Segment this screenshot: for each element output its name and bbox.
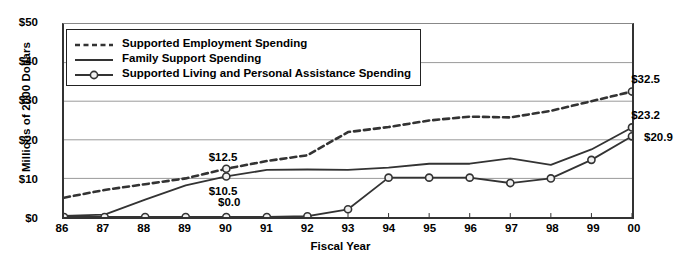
x-axis-tick-88: 88 (124, 222, 164, 234)
y-axis-tick-50: $50 (0, 16, 38, 28)
legend-item-2: Supported Living and Personal Assistance… (73, 65, 411, 80)
x-axis-tick-93: 93 (328, 222, 368, 234)
x-axis-tick-86: 86 (42, 222, 82, 234)
data-label-209: $20.9 (644, 131, 673, 143)
line-chart: Millions of 2000 Dollars $0$10$20$30$40$… (0, 0, 681, 262)
legend-label: Family Support Spending (122, 52, 261, 64)
solid-line-circle-marker-swatch (73, 67, 115, 79)
x-axis-tick-89: 89 (165, 222, 205, 234)
y-axis-tick-20: $20 (0, 134, 38, 146)
x-axis-tick-98: 98 (532, 222, 572, 234)
y-axis-tick-0: $0 (0, 212, 38, 224)
data-label-125: $12.5 (189, 151, 237, 163)
legend-item-0: Supported Employment Spending (73, 35, 411, 50)
x-axis-title: Fiscal Year (0, 240, 681, 252)
x-axis-tick-94: 94 (369, 222, 409, 234)
x-axis-tick-87: 87 (83, 222, 123, 234)
y-axis-tick-10: $10 (0, 173, 38, 185)
legend-label: Supported Living and Personal Assistance… (122, 67, 411, 79)
legend-label: Supported Employment Spending (122, 37, 307, 49)
x-axis-tick-96: 96 (451, 222, 491, 234)
data-label-325: $32.5 (612, 73, 660, 85)
x-axis-tick-92: 92 (287, 222, 327, 234)
dashed-line-swatch (73, 37, 115, 49)
x-axis-tick-99: 99 (573, 222, 613, 234)
chart-legend: Supported Employment SpendingFamily Supp… (66, 29, 421, 86)
data-label-00: $0.0 (192, 196, 240, 208)
x-axis-tick-90: 90 (205, 222, 245, 234)
x-axis-tick-97: 97 (491, 222, 531, 234)
data-label-232: $23.2 (612, 109, 660, 121)
legend-item-1: Family Support Spending (73, 50, 411, 65)
x-axis-tick-95: 95 (410, 222, 450, 234)
solid-line-swatch (73, 52, 115, 64)
x-axis-tick-00: 00 (614, 222, 654, 234)
y-axis-tick-30: $30 (0, 94, 38, 106)
x-axis-tick-91: 91 (246, 222, 286, 234)
y-axis-tick-40: $40 (0, 55, 38, 67)
